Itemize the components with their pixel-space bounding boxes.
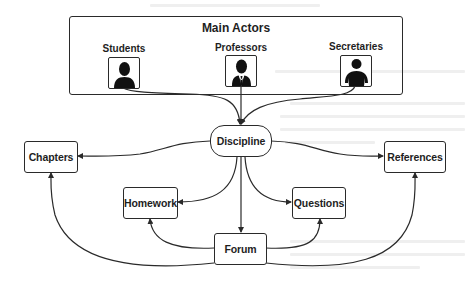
professor-person-with-tie-icon — [225, 55, 257, 87]
node-chapters: Chapters — [24, 141, 78, 173]
node-homework: Homework — [123, 187, 178, 219]
secretary-person-icon — [340, 55, 372, 87]
edge-forum-questions — [266, 219, 320, 248]
actor-label-secretaries: Secretaries — [329, 41, 383, 52]
edge-discipline-references — [271, 141, 383, 156]
edge-forum-homework — [150, 219, 214, 248]
student-person-icon — [108, 57, 140, 89]
node-discipline: Discipline — [210, 125, 272, 157]
actor-label-students: Students — [103, 43, 146, 54]
edge-discipline-homework — [178, 157, 237, 202]
main-actors-title: Main Actors — [70, 21, 402, 35]
edge-discipline-questions — [245, 157, 291, 202]
node-forum: Forum — [214, 233, 267, 265]
node-questions: Questions — [292, 187, 346, 219]
actor-label-professors: Professors — [215, 42, 267, 53]
diagram-canvas: Main Actors Students Professors Secretar… — [0, 0, 468, 281]
edge-discipline-chapters — [78, 141, 210, 156]
node-references: References — [384, 141, 446, 173]
